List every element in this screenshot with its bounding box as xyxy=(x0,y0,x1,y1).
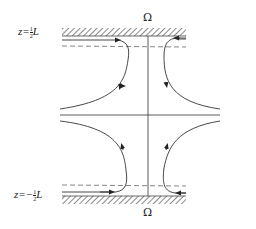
streamline-bottom-right xyxy=(163,121,220,193)
bottom-level-suffix: L xyxy=(36,188,42,200)
arrow-top-right-down xyxy=(166,82,167,85)
streamline-top-left xyxy=(60,40,129,109)
top-level-label: z=12L xyxy=(18,25,39,39)
top-omega-label: Ω xyxy=(143,11,152,24)
streamline-bottom-left xyxy=(60,121,127,192)
top-dashed-line xyxy=(62,46,186,47)
bottom-wall xyxy=(62,196,186,204)
streamline-top-right xyxy=(164,38,220,109)
bottom-level-prefix: z=− xyxy=(14,188,33,200)
top-wall xyxy=(62,28,186,36)
top-level-suffix: L xyxy=(33,25,39,37)
arrow-bottom-right-up xyxy=(166,146,167,150)
top-level-prefix: z= xyxy=(18,25,30,37)
bottom-omega-label: Ω xyxy=(143,206,152,219)
arrow-bottom-left-up xyxy=(122,146,123,150)
bottom-dashed-line xyxy=(62,185,186,186)
bottom-level-label: z=−12L xyxy=(14,188,42,202)
